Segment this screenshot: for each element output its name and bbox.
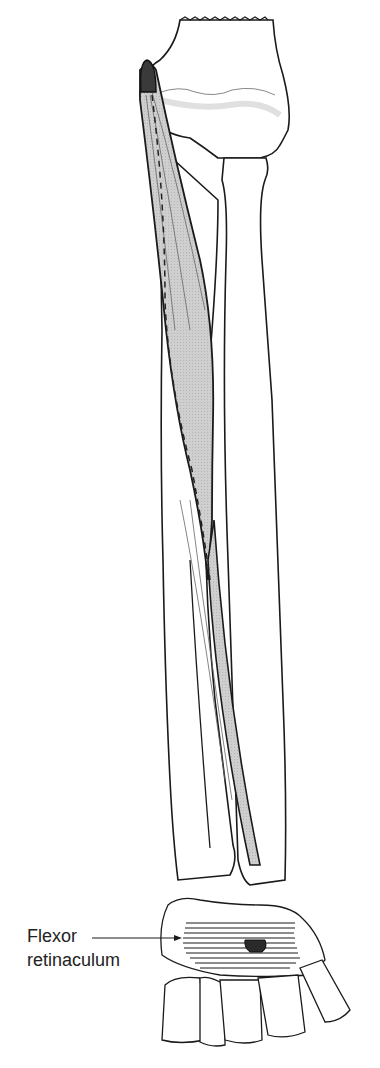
muscle-insertion [245,940,266,952]
carpal-bones [161,898,350,1046]
flexor-retinaculum-label-line1: Flexor [27,925,77,947]
forearm-anatomy-illustration [0,0,380,1068]
ulna [222,158,286,885]
flexor-retinaculum-label-line2: retinaculum [27,949,120,971]
